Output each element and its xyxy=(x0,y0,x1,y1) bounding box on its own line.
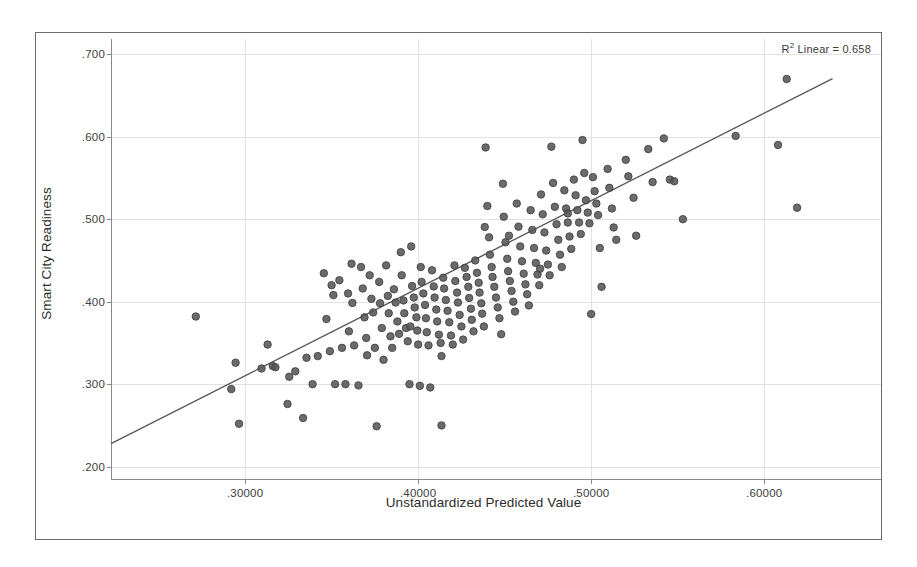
scatter-point xyxy=(516,243,524,251)
scatter-point xyxy=(388,344,396,352)
scatter-point xyxy=(373,422,381,430)
scatter-point xyxy=(323,315,331,323)
scatter-point xyxy=(520,270,528,278)
scatter-point xyxy=(610,224,618,232)
scatter-point xyxy=(192,313,200,321)
scatter-point xyxy=(355,382,363,390)
scatter-point xyxy=(527,206,535,214)
scatter-point xyxy=(336,276,344,284)
scatter-point xyxy=(549,179,557,187)
scatter-point xyxy=(774,141,782,149)
scatter-point xyxy=(536,265,544,273)
scatter-point xyxy=(363,352,371,360)
scatter-point xyxy=(577,230,585,238)
x-tick-label: .40000 xyxy=(378,487,458,499)
scatter-point xyxy=(564,219,572,227)
scatter-point xyxy=(476,289,484,297)
y-tick-label: .300 xyxy=(63,378,105,390)
scatter-point xyxy=(385,309,393,317)
scatter-point xyxy=(394,318,402,326)
scatter-point xyxy=(371,344,379,352)
scatter-point xyxy=(435,331,443,339)
scatter-point xyxy=(421,301,429,309)
y-tick-label: .200 xyxy=(63,461,105,473)
scatter-point xyxy=(235,420,243,428)
scatter-point xyxy=(314,352,322,360)
scatter-point xyxy=(783,75,791,83)
scatter-point xyxy=(544,261,552,269)
scatter-point xyxy=(328,281,336,289)
scatter-point xyxy=(575,219,583,227)
scatter-point xyxy=(485,234,493,242)
scatter-point xyxy=(536,281,544,289)
scatter-point xyxy=(449,341,457,349)
scatter-point xyxy=(350,342,358,350)
scatter-point xyxy=(362,334,370,342)
scatter-point xyxy=(584,209,592,217)
scatter-point xyxy=(376,300,384,308)
scatter-point xyxy=(582,196,590,204)
scatter-point xyxy=(548,143,556,151)
scatter-point xyxy=(411,304,419,312)
scatter-point xyxy=(359,285,367,293)
scatter-point xyxy=(579,136,587,144)
scatter-point xyxy=(504,255,512,262)
scatter-point xyxy=(407,323,415,331)
scatter-svg-layer xyxy=(111,39,881,479)
scatter-point xyxy=(480,323,488,331)
scatter-point xyxy=(645,145,653,153)
scatter-point xyxy=(433,306,441,314)
scatter-point xyxy=(369,309,377,317)
scatter-point xyxy=(410,294,418,302)
scatter-point xyxy=(608,205,616,213)
scatter-point xyxy=(522,281,530,289)
scatter-point xyxy=(420,290,428,298)
scatter-point xyxy=(406,380,414,388)
scatter-point xyxy=(589,173,597,181)
scatter-point xyxy=(438,422,446,430)
scatter-point xyxy=(570,176,578,184)
scatter-point xyxy=(525,302,533,310)
scatter-point xyxy=(392,299,400,307)
scatter-point xyxy=(348,260,356,268)
scatter-point xyxy=(511,308,519,316)
scatter-point xyxy=(299,414,307,422)
plot-area: .200.300.400.500.600.700 .30000.40000.50… xyxy=(111,39,881,479)
scatter-point xyxy=(303,354,311,362)
scatter-point xyxy=(272,364,280,372)
scatter-point xyxy=(523,291,531,299)
scatter-point xyxy=(556,251,564,258)
chart-frame: R2 Linear = 0.658 Smart City Readiness U… xyxy=(35,32,882,540)
scatter-point xyxy=(551,203,559,211)
scatter-point xyxy=(331,380,339,388)
scatter-point xyxy=(541,229,549,237)
y-tick-label: .700 xyxy=(63,48,105,60)
scatter-point xyxy=(400,297,408,305)
scatter-point xyxy=(473,269,481,277)
scatter-point xyxy=(470,328,478,336)
scatter-point xyxy=(506,277,513,285)
scatter-point xyxy=(649,178,657,186)
scatter-point xyxy=(593,200,601,208)
x-tick-mark xyxy=(418,480,419,484)
x-tick-mark xyxy=(591,480,592,484)
scatter-point xyxy=(438,352,446,360)
scatter-point xyxy=(361,314,369,322)
scatter-point xyxy=(378,324,386,332)
scatter-point xyxy=(454,299,462,307)
scatter-point xyxy=(433,318,441,326)
scatter-point xyxy=(496,314,504,322)
scatter-point xyxy=(440,285,448,293)
scatter-point xyxy=(500,213,508,221)
scatter-point xyxy=(232,359,240,367)
scatter-point xyxy=(398,272,406,280)
scatter-point xyxy=(349,299,357,307)
scatter-point xyxy=(613,236,621,244)
scatter-point xyxy=(515,223,523,231)
scatter-point xyxy=(463,273,471,281)
scatter-point xyxy=(284,400,292,408)
scatter-point xyxy=(465,283,473,291)
scatter-point xyxy=(330,291,338,299)
scatter-point xyxy=(497,331,505,339)
scatter-point xyxy=(598,283,606,291)
